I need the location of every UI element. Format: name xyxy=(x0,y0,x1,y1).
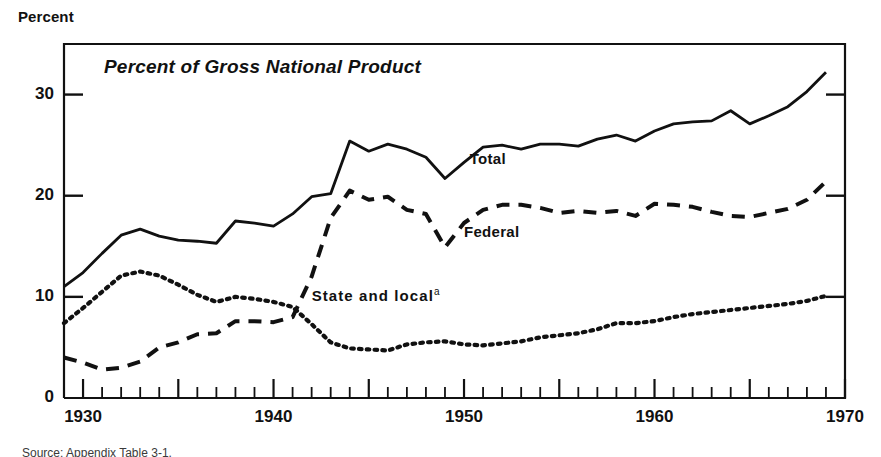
plot-frame xyxy=(64,44,845,398)
x-tick-label: 1970 xyxy=(810,407,880,427)
x-tick-label: 1940 xyxy=(239,407,309,427)
y-axis-title: Percent xyxy=(18,8,74,25)
x-tick-label: 1950 xyxy=(429,407,499,427)
series-label-federal: Federal xyxy=(464,223,519,240)
series-label-state-and-local-text: State and local xyxy=(312,287,434,304)
y-tick-label: 0 xyxy=(14,387,54,407)
y-tick-label: 20 xyxy=(14,185,54,205)
chart-title: Percent of Gross National Product xyxy=(104,56,421,78)
source-footnote: Source: Appendix Table 3-1. xyxy=(22,446,172,457)
series-label-total: Total xyxy=(470,150,506,167)
series-line-state-and-local xyxy=(64,272,826,351)
series-label-state-and-local: State and locala xyxy=(312,286,440,304)
series-line-total xyxy=(64,72,826,286)
chart-figure: Percent Percent of Gross National Produc… xyxy=(0,0,881,457)
y-tick-label: 30 xyxy=(14,84,54,104)
x-tick-label: 1960 xyxy=(620,407,690,427)
y-tick-label: 10 xyxy=(14,286,54,306)
footnote-marker-a: a xyxy=(434,286,440,297)
x-tick-label: 1930 xyxy=(48,407,118,427)
